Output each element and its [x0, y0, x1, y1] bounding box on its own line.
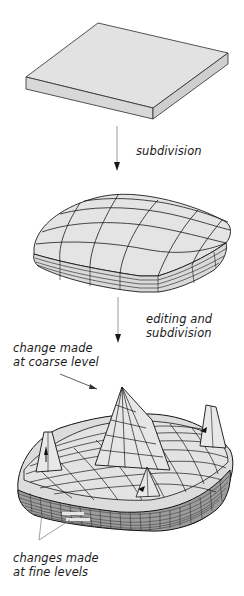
editing-subdivision-arrow	[115, 297, 121, 343]
coarse-annotation-line2: at coarse level	[13, 355, 99, 369]
base-slab	[0, 0, 244, 596]
editing-label-line2: subdivision	[146, 326, 212, 340]
fine-annotation-line2: at fine levels	[13, 565, 88, 579]
subdivision-arrow	[114, 126, 120, 171]
subdivision-label: subdivision	[136, 144, 202, 158]
editing-label-line1: editing and	[146, 312, 212, 326]
fine-annotation-line1: changes made	[13, 551, 99, 565]
subdivided-mesh	[34, 194, 231, 292]
edited-mesh	[18, 387, 233, 531]
coarse-annotation-line1: change made	[13, 341, 93, 355]
